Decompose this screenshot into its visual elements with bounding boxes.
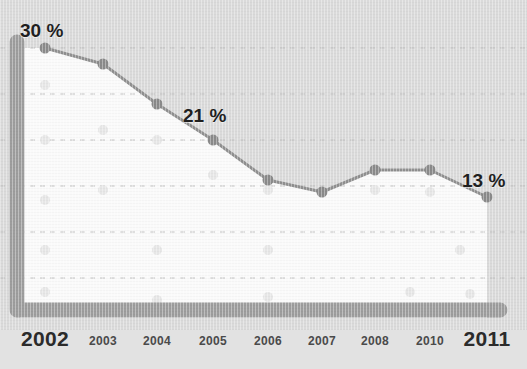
background-dot xyxy=(370,185,380,195)
background-dot xyxy=(263,245,273,255)
x-tick-2010: 2010 xyxy=(416,334,444,348)
background-dot xyxy=(152,245,162,255)
background-dot xyxy=(40,287,50,297)
background-dot xyxy=(455,245,465,255)
background-dot xyxy=(465,289,475,299)
value-label-2011: 13 % xyxy=(462,170,505,192)
data-point-marker[interactable] xyxy=(425,165,436,176)
x-tick-2004: 2004 xyxy=(143,334,171,348)
x-axis-labels: 2002 2003 2004 2005 2006 2007 2008 2010 … xyxy=(0,330,527,369)
chart-plot-area xyxy=(0,0,527,369)
value-label-2005: 21 % xyxy=(183,105,226,127)
data-point-marker[interactable] xyxy=(98,59,109,70)
background-dot xyxy=(208,170,218,180)
data-point-marker[interactable] xyxy=(263,175,274,186)
x-tick-2002: 2002 xyxy=(21,327,69,351)
background-dot xyxy=(98,185,108,195)
background-dot xyxy=(263,185,273,195)
data-point-marker[interactable] xyxy=(152,99,163,110)
background-dot xyxy=(405,287,415,297)
background-dot xyxy=(263,292,273,302)
data-point-marker[interactable] xyxy=(482,192,493,203)
background-dot xyxy=(40,245,50,255)
data-point-marker[interactable] xyxy=(370,165,381,176)
background-dot xyxy=(425,187,435,197)
x-tick-2003: 2003 xyxy=(89,334,117,348)
data-point-marker[interactable] xyxy=(317,187,328,198)
x-tick-2008: 2008 xyxy=(361,334,389,348)
x-tick-2006: 2006 xyxy=(254,334,282,348)
background-dot xyxy=(40,80,50,90)
data-point-marker[interactable] xyxy=(40,43,51,54)
line-chart: 30 % 21 % 13 % 2002 2003 2004 2005 2006 … xyxy=(0,0,527,369)
background-dot xyxy=(40,195,50,205)
background-dot xyxy=(40,135,50,145)
background-dot xyxy=(98,125,108,135)
x-tick-2005: 2005 xyxy=(199,334,227,348)
data-point-marker[interactable] xyxy=(208,135,219,146)
background-dot xyxy=(152,135,162,145)
value-label-2002: 30 % xyxy=(20,20,63,42)
x-tick-2011: 2011 xyxy=(464,327,511,351)
x-tick-2007: 2007 xyxy=(308,334,336,348)
